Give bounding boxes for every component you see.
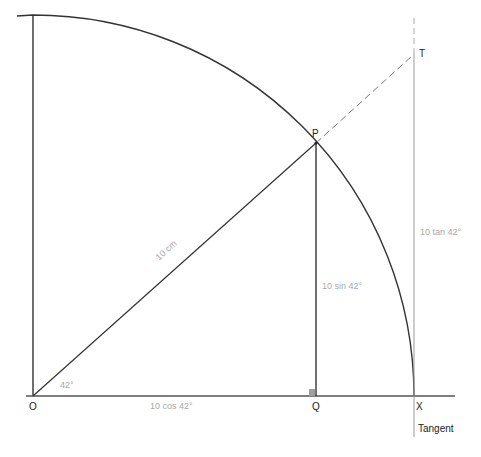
label-adjacent: 10 cos 42° bbox=[150, 400, 193, 412]
label-angle: 42° bbox=[60, 379, 74, 391]
extension-pt bbox=[316, 56, 412, 143]
radius-op bbox=[33, 143, 316, 396]
label-q: Q bbox=[312, 401, 320, 413]
quarter-circle-arc bbox=[17, 15, 414, 396]
label-o: O bbox=[29, 401, 37, 413]
label-x: X bbox=[416, 401, 423, 413]
label-t: T bbox=[419, 48, 425, 60]
right-angle-marker bbox=[309, 389, 315, 396]
point-p-dot bbox=[314, 141, 317, 144]
label-p: P bbox=[312, 128, 319, 140]
label-tangent: Tangent bbox=[418, 423, 454, 435]
label-opposite: 10 sin 42° bbox=[322, 280, 362, 292]
label-tangent-length: 10 tan 42° bbox=[420, 226, 461, 238]
